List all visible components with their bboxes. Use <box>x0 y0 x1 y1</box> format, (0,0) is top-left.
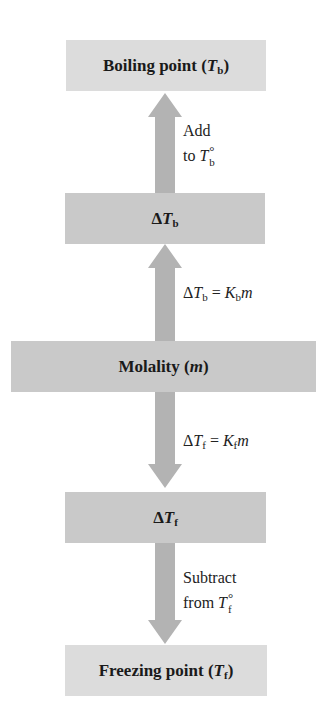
delta-tf-label: ΔTf <box>153 508 178 528</box>
subtract-from-tf-label: Subtract from T°f <box>183 565 236 615</box>
freezing-point-label: Freezing point (Tf) <box>99 661 234 681</box>
arrow-down-icon <box>148 543 182 644</box>
freezing-point-box: Freezing point (Tf) <box>65 645 267 696</box>
delta-tf-box: ΔTf <box>65 492 266 543</box>
boiling-point-label: Boiling point (Tb) <box>103 56 229 76</box>
delta-tb-label: ΔTb <box>151 209 178 229</box>
molality-box: Molality (m) <box>11 341 316 392</box>
add-to-tb-label: Add to T°b <box>183 118 217 168</box>
boiling-elevation-equation: ΔTb = Kbm <box>183 280 252 310</box>
freezing-depression-equation: ΔTf = Kfm <box>183 428 249 458</box>
molality-label: Molality (m) <box>118 357 208 377</box>
boiling-point-box: Boiling point (Tb) <box>66 40 266 91</box>
arrow-down-icon <box>148 392 182 488</box>
delta-tb-box: ΔTb <box>65 193 265 244</box>
arrow-up-icon <box>148 244 182 342</box>
arrow-up-icon <box>148 93 182 194</box>
